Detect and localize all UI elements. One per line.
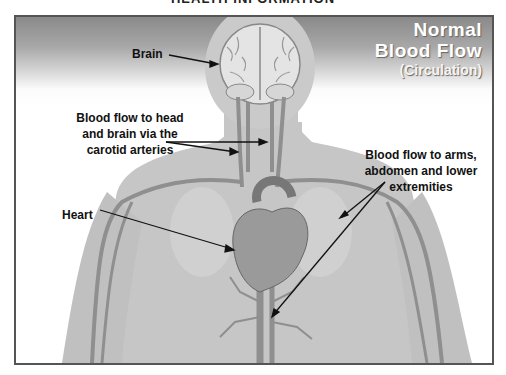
title-line-normal: Normal (375, 19, 482, 40)
label-carotid-line-2: and brain via the (52, 126, 208, 142)
label-carotid-line-1: Blood flow to head (52, 110, 208, 126)
cut-off-header-title: HEALTH INFORMATION (135, 0, 371, 3)
label-limbs: Blood flow to arms, abdomen and lower ex… (356, 147, 486, 195)
label-brain: Brain (132, 46, 163, 62)
circulation-diagram: Normal Blood Flow (Circulation) Brain Bl… (14, 15, 494, 365)
label-heart: Heart (62, 207, 93, 223)
title-line-circulation: (Circulation) (375, 61, 482, 79)
label-carotid-line-3: carotid arteries (52, 142, 208, 158)
brain-illustration (220, 24, 300, 104)
label-limbs-line-3: extremities (356, 179, 486, 195)
diagram-title: Normal Blood Flow (Circulation) (375, 19, 482, 79)
label-carotid-arteries: Blood flow to head and brain via the car… (52, 110, 208, 158)
title-line-blood-flow: Blood Flow (375, 40, 482, 61)
label-limbs-line-1: Blood flow to arms, (356, 147, 486, 163)
label-limbs-line-2: abdomen and lower (356, 163, 486, 179)
